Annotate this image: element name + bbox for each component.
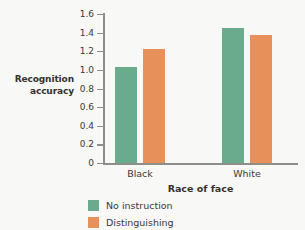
y-axis-tick-label-text: 0.8 — [66, 84, 94, 93]
legend-item: No instruction — [88, 198, 174, 213]
y-axis-title-line-2: accuracy — [2, 86, 74, 98]
bar — [115, 67, 137, 163]
y-axis-tick-label-text: 0.2 — [66, 140, 94, 149]
bar — [222, 28, 244, 163]
y-axis-tick-label-text: 0 — [66, 159, 94, 168]
x-axis-category-label: White — [207, 168, 287, 179]
y-axis-tick — [97, 163, 103, 164]
bar — [250, 35, 272, 163]
y-axis-title: Recognition accuracy — [2, 74, 74, 97]
bar — [143, 49, 165, 163]
legend-item: Distinguishing — [88, 215, 174, 230]
bar-chart-figure: Recognition accuracy 1.61.41.21.00.80.60… — [0, 0, 305, 230]
plot-bars-area — [103, 14, 298, 163]
y-axis-tick-label-text: 1.0 — [66, 65, 94, 74]
legend-color-swatch — [88, 217, 99, 228]
y-axis-tick-label-text: 1.6 — [66, 10, 94, 19]
x-axis-category-label: Black — [100, 168, 180, 179]
y-axis-tick-label-text: 0.4 — [66, 121, 94, 130]
legend-item-label: Distinguishing — [106, 217, 174, 228]
legend-color-swatch — [88, 200, 99, 211]
y-axis-title-line-1: Recognition — [2, 74, 74, 86]
chart-legend: No instructionDistinguishing — [88, 198, 174, 230]
x-axis-title: Race of face — [103, 183, 298, 194]
x-axis-line — [103, 163, 298, 165]
legend-item-label: No instruction — [106, 200, 173, 211]
y-axis-tick-label-text: 1.4 — [66, 28, 94, 37]
y-axis-tick-label-text: 0.6 — [66, 103, 94, 112]
y-axis-tick-label-text: 1.2 — [66, 47, 94, 56]
